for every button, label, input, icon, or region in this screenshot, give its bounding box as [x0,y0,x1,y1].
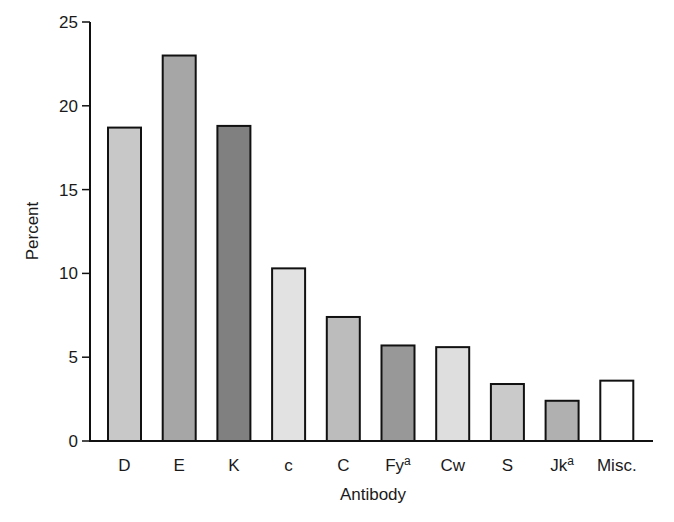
bars [108,56,633,441]
bar-chart: 0510152025 DEKcCFyaCwSJkaMisc. Percent A… [0,0,674,522]
bar-jk [546,401,579,441]
bar-fy [382,345,415,441]
y-axis: 0510152025 [59,13,90,451]
y-tick-label: 0 [69,432,78,451]
y-tick-label: 10 [59,264,78,283]
bar-cw [436,347,469,441]
y-tick-label: 5 [69,348,78,367]
bar-c [272,268,305,441]
bar-d [108,128,141,441]
x-category-label: c [284,456,293,475]
x-category-label: Jka [550,454,574,475]
x-category-label: Misc. [597,456,637,475]
x-category-label: Fya [385,454,411,475]
x-category-label: Cw [440,456,465,475]
y-tick-label: 20 [59,97,78,116]
x-axis: DEKcCFyaCwSJkaMisc. [89,441,653,475]
bar-misc [600,381,633,441]
y-axis-title: Percent [23,201,42,260]
y-tick-label: 15 [59,181,78,200]
x-category-label: S [502,456,513,475]
bar-e [163,56,196,441]
x-category-label: K [228,456,240,475]
bar-s [491,384,524,441]
bar-k [217,126,250,441]
x-category-label: E [174,456,185,475]
x-axis-title: Antibody [340,485,407,504]
y-tick-label: 25 [59,13,78,32]
bar-c [327,317,360,441]
x-category-label: C [337,456,349,475]
x-category-label: D [118,456,130,475]
